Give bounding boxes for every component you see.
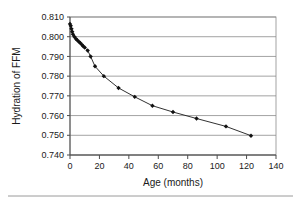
- y-tick-label-0: 0.740: [41, 150, 64, 160]
- x-tick-label-2: 40: [124, 161, 134, 171]
- x-tick-label-1: 20: [94, 161, 104, 171]
- y-tick-label-6: 0.800: [41, 32, 64, 42]
- x-tick-label-5: 100: [210, 161, 225, 171]
- x-tick-label-6: 120: [239, 161, 254, 171]
- x-axis-title: Age (months): [143, 177, 203, 188]
- y-tick-label-4: 0.780: [41, 71, 64, 81]
- x-tick-label-0: 0: [67, 161, 72, 171]
- y-tick-label-5: 0.790: [41, 52, 64, 62]
- y-tick-label-2: 0.760: [41, 111, 64, 121]
- chart-figure: 0.7400.7500.7600.7700.7800.7900.8000.810…: [0, 0, 301, 199]
- y-axis-title: Hydration of FFM: [11, 47, 22, 124]
- x-tick-label-7: 140: [268, 161, 283, 171]
- x-tick-label-4: 80: [183, 161, 193, 171]
- y-tick-label-3: 0.770: [41, 91, 64, 101]
- y-tick-label-1: 0.750: [41, 130, 64, 140]
- hydration-vs-age-line-chart: 0.7400.7500.7600.7700.7800.7900.8000.810…: [0, 0, 301, 199]
- y-tick-label-7: 0.810: [41, 12, 64, 22]
- x-tick-label-3: 60: [153, 161, 163, 171]
